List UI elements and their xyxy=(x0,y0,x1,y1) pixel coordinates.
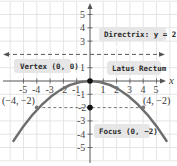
vertex-callout: Vertex (0, 0) xyxy=(14,59,79,73)
right-point-label: (4, −2) xyxy=(143,95,170,107)
svg-text:-5: -5 xyxy=(77,142,85,153)
svg-text:1: 1 xyxy=(101,84,106,95)
directrix-right-arrow-icon xyxy=(159,52,165,57)
svg-text:5: 5 xyxy=(80,9,85,20)
svg-text:4: 4 xyxy=(80,22,85,33)
latus-rectum-callout: Latus Rectum xyxy=(107,61,167,75)
x-axis-label: x xyxy=(168,74,174,86)
svg-text:Vertex (0, 0): Vertex (0, 0) xyxy=(20,62,79,71)
parabola-diagram: x -5 -4 -3 -2 -1 1 2 3 4 5 xyxy=(0,0,177,166)
directrix-callout: Directrix: y = 2 xyxy=(99,27,176,41)
svg-text:-5: -5 xyxy=(19,84,27,95)
svg-text:-1: -1 xyxy=(77,89,85,100)
x-axis-arrow-icon xyxy=(160,79,166,84)
left-endpoint-point xyxy=(35,106,39,110)
svg-text:3: 3 xyxy=(80,36,85,47)
left-point-label: (−4, −2) xyxy=(2,95,35,107)
svg-text:3: 3 xyxy=(127,84,132,95)
svg-text:5: 5 xyxy=(154,84,159,95)
focus-callout: Focus (0, −2) xyxy=(94,124,158,138)
svg-text:-3: -3 xyxy=(77,115,85,126)
svg-text:4: 4 xyxy=(141,84,146,95)
graph-canvas: x -5 -4 -3 -2 -1 1 2 3 4 5 xyxy=(0,0,177,166)
y-axis-arrow-icon xyxy=(88,3,93,9)
directrix-left-arrow-icon xyxy=(3,52,9,57)
svg-text:-4: -4 xyxy=(32,84,40,95)
focus-point xyxy=(87,105,93,111)
svg-text:-4: -4 xyxy=(77,129,85,140)
directrix-line xyxy=(3,52,165,57)
x-tick-labels: -5 -4 -3 -2 -1 1 2 3 4 5 xyxy=(19,84,159,95)
svg-text:1: 1 xyxy=(80,62,85,73)
svg-text:Directrix: y = 2: Directrix: y = 2 xyxy=(104,30,176,39)
right-endpoint-point xyxy=(141,106,145,110)
svg-text:-3: -3 xyxy=(46,84,54,95)
svg-text:Focus (0, −2): Focus (0, −2) xyxy=(99,127,158,136)
vertex-point xyxy=(87,78,93,84)
svg-text:Latus Rectum: Latus Rectum xyxy=(112,64,167,73)
